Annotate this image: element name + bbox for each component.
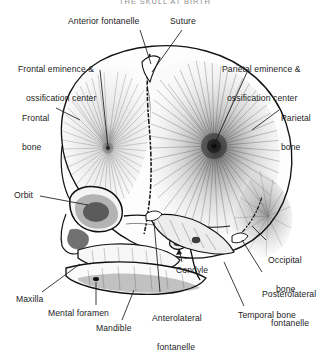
leader-mandible <box>122 290 134 320</box>
label-frontal-eminence-line1: Frontal eminence & <box>18 65 96 75</box>
label-temporal-bone: Temporal bone <box>238 311 296 321</box>
figure-header: THE SKULL AT BIRTH <box>0 0 330 7</box>
leader-temporal-bone <box>224 262 244 306</box>
label-anterolateral-fontanelle: Anterolateral fontanelle <box>152 295 202 354</box>
label-frontal-bone: Frontal bone <box>22 95 49 172</box>
label-parietal-eminence-line1: Parietal eminence & <box>222 65 301 75</box>
label-anterior-fontanelle: Anterior fontanelle <box>68 17 139 27</box>
label-anterolateral-fontanelle-line1: Anterolateral <box>152 314 202 324</box>
label-maxilla: Maxilla <box>16 295 43 305</box>
label-frontal-bone-line1: Frontal <box>22 114 49 124</box>
label-frontal-bone-line2: bone <box>22 143 49 153</box>
label-anterolateral-fontanelle-line2: fontanelle <box>152 343 202 353</box>
label-occipital-bone-line1: Occipital <box>268 256 302 266</box>
label-mandible: Mandible <box>96 324 132 334</box>
label-parietal-bone: Parietal bone <box>281 95 311 172</box>
figure-header-title: THE SKULL AT BIRTH <box>0 0 330 5</box>
label-orbit: Orbit <box>14 191 33 201</box>
label-parietal-bone-line1: Parietal <box>281 114 311 124</box>
label-parietal-bone-line2: bone <box>281 143 311 153</box>
label-mental-foramen: Mental foramen <box>48 309 109 319</box>
label-suture: Suture <box>170 17 196 27</box>
label-posterolateral-fontanelle-line1: Posterolateral <box>262 290 316 300</box>
label-condyle: Condyle <box>176 266 208 276</box>
